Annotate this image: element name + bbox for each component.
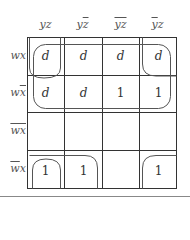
cell-wbarx-ybarz: 1 bbox=[140, 153, 177, 190]
cell-wx-yz: d bbox=[27, 38, 64, 75]
cell-wxbar-yz: d bbox=[27, 75, 64, 112]
cell-wbarx-yz: 1 bbox=[27, 153, 64, 190]
cell-wx-yzbar: d bbox=[65, 38, 102, 75]
cell-wx-ybarz: d bbox=[140, 38, 177, 75]
cell-wxbar-ybarz: 1 bbox=[140, 75, 177, 112]
cell-wbarx-yzbar: 1 bbox=[65, 153, 102, 190]
cell-wxbar-ybarzbar: 1 bbox=[102, 75, 139, 112]
cell-wbarxbar-ybarz bbox=[140, 113, 177, 150]
cell-wbarx-ybarzbar bbox=[102, 153, 139, 190]
cell-wbarxbar-ybarzbar bbox=[102, 113, 139, 150]
cell-wbarxbar-yzbar bbox=[65, 113, 102, 150]
cell-wbarxbar-yz bbox=[27, 113, 64, 150]
horizontal-rule bbox=[0, 196, 190, 197]
cell-wx-ybarzbar: d bbox=[102, 38, 139, 75]
cell-wxbar-yzbar: d bbox=[65, 75, 102, 112]
